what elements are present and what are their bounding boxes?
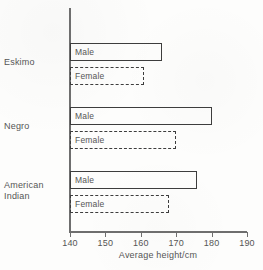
bar-female: Female: [70, 195, 169, 213]
x-axis-tick: [141, 232, 142, 237]
x-axis-tick: [247, 232, 248, 237]
bar-label: Female: [75, 199, 105, 209]
x-axis-tick: [176, 232, 177, 237]
x-axis-tick: [212, 232, 213, 237]
x-axis-tick-label: 170: [161, 238, 191, 248]
bar-label: Male: [75, 111, 94, 121]
category-label-line: Negro: [4, 121, 66, 132]
bar-label: Male: [75, 47, 94, 57]
bar-male: Male: [70, 43, 162, 61]
category-label-line: Eskimo: [4, 57, 66, 68]
x-axis-tick-label: 160: [126, 238, 156, 248]
plot-area: 140150160170180190 Average height/cm Esk…: [0, 0, 263, 270]
category-label: Eskimo: [4, 57, 66, 68]
bar-female: Female: [70, 131, 176, 149]
category-label-line: Indian: [4, 191, 66, 202]
category-label: AmericanIndian: [4, 180, 66, 202]
bar-male: Male: [70, 171, 197, 189]
x-axis-tick: [70, 232, 71, 237]
category-label: Negro: [4, 121, 66, 132]
x-axis-tick-label: 140: [55, 238, 85, 248]
x-axis-tick-label: 150: [90, 238, 120, 248]
x-axis-title: Average height/cm: [69, 250, 247, 260]
x-axis-line: [69, 231, 247, 233]
bar-label: Female: [75, 135, 105, 145]
bar-female: Female: [70, 67, 144, 85]
bar-male: Male: [70, 107, 212, 125]
x-axis-tick: [105, 232, 106, 237]
bar-label: Male: [75, 175, 94, 185]
bar-label: Female: [75, 71, 105, 81]
category-label-line: American: [4, 180, 66, 191]
x-axis-tick-label: 190: [232, 238, 262, 248]
bar-chart-figure: 140150160170180190 Average height/cm Esk…: [0, 0, 263, 270]
x-axis-tick-label: 180: [197, 238, 227, 248]
